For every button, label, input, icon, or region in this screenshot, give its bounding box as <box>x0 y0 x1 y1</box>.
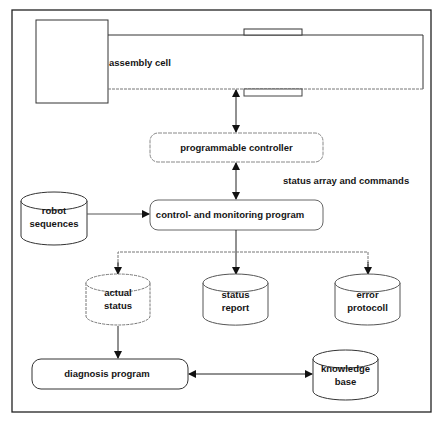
actual-status-label-2: status <box>86 299 150 312</box>
assembly-cell-shape[interactable] <box>36 20 423 103</box>
knowledge-base-label-2: base <box>313 375 378 388</box>
programmable-controller-label: programmable controller <box>150 141 323 154</box>
status-array-label: status array and commands <box>283 174 409 187</box>
edge-branch-line <box>118 252 368 274</box>
assembly-cell-label: assembly cell <box>109 56 171 69</box>
robot-sequences-label-1: robot <box>21 204 87 217</box>
status-report-label-2: report <box>203 301 268 314</box>
robot-sequences-label-2: sequences <box>21 217 87 230</box>
error-protocoll-label-1: error <box>335 288 400 301</box>
status-report-label-1: status <box>203 288 268 301</box>
error-protocoll-label-2: protocoll <box>335 301 400 314</box>
diagnosis-program-label: diagnosis program <box>32 367 182 380</box>
actual-status-label-1: actual <box>86 286 150 299</box>
knowledge-base-label-1: knowledge <box>313 362 378 375</box>
control-program-label: control- and monitoring program <box>150 208 310 221</box>
